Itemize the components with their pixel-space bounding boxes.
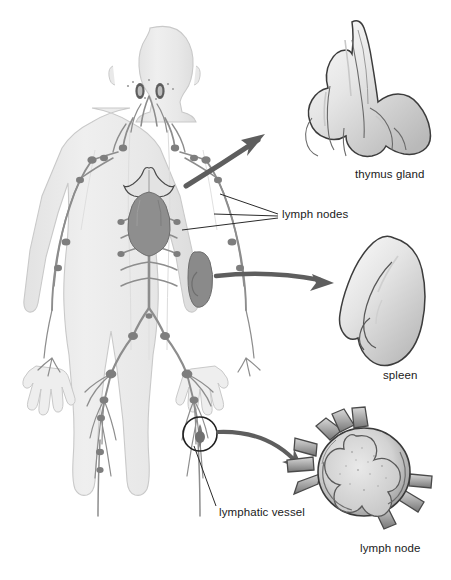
label-thymus-gland: thymus gland	[355, 168, 425, 180]
vessel-highlight-node	[195, 424, 205, 448]
body-silhouette	[24, 26, 217, 495]
thymus-arrow	[186, 134, 265, 186]
heart-in-body	[128, 192, 170, 256]
spleen-in-body	[188, 252, 213, 308]
spleen-arrow	[216, 274, 334, 291]
thymus-inset	[306, 21, 431, 157]
label-lymphatic-vessel: lymphatic vessel	[219, 506, 305, 518]
label-lymph-node: lymph node	[360, 542, 420, 554]
label-spleen: spleen	[383, 369, 418, 381]
lymphatic-system-figure: lymph nodes thymus gland spleen lymphati…	[0, 0, 451, 580]
spleen-inset	[340, 236, 426, 365]
label-lymph-nodes: lymph nodes	[282, 208, 348, 220]
figure-canvas	[0, 0, 451, 580]
lymph-node-inset	[287, 407, 432, 529]
